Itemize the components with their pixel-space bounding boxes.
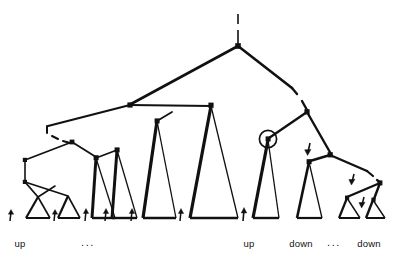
node-RRR — [377, 180, 382, 185]
node-farleft-top — [23, 158, 27, 162]
node-root — [235, 43, 241, 49]
node-LL — [70, 140, 75, 145]
node-R — [304, 109, 309, 114]
label-ellipsis-2: ... — [327, 236, 341, 248]
label-ellipsis-1: ... — [81, 236, 95, 248]
tree-diagram-svg: up ... up down ... down — [0, 0, 404, 269]
label-down-left: down — [289, 238, 313, 249]
node-RR — [328, 152, 333, 157]
tree-diagram-figure: up ... up down ... down — [0, 0, 404, 269]
label-down-right: down — [357, 238, 381, 249]
edge-L-right — [130, 105, 211, 106]
node-farleft-mid — [23, 180, 27, 184]
label-up-left: up — [15, 238, 26, 249]
node-L — [127, 102, 132, 107]
canvas-background — [0, 0, 404, 269]
label-up-right: up — [244, 238, 255, 249]
